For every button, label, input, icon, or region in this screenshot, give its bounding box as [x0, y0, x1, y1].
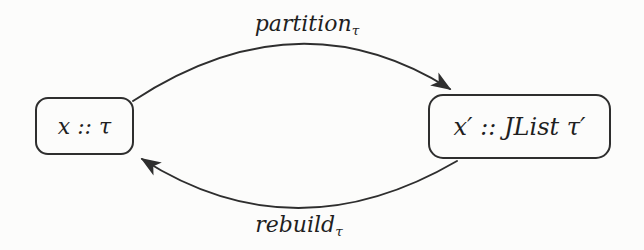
- node-jlist-label: x′ :: JList τ′: [454, 113, 586, 141]
- node-x-label: x :: τ: [58, 114, 111, 139]
- diagram-canvas: partitionτ x :: τ x′ :: JList τ′ rebuild…: [0, 0, 644, 250]
- partition-label-subscript: τ: [352, 22, 360, 38]
- node-jlist-box: x′ :: JList τ′: [428, 94, 611, 159]
- rebuild-label-subscript: τ: [335, 223, 343, 239]
- rebuild-label-name: rebuild: [255, 212, 335, 237]
- partition-arrow: [133, 44, 450, 101]
- partition-label: partitionτ: [255, 11, 359, 38]
- partition-label-name: partition: [255, 11, 352, 36]
- rebuild-label: rebuildτ: [255, 212, 343, 239]
- node-x-box: x :: τ: [35, 97, 134, 155]
- rebuild-arrow: [142, 159, 457, 208]
